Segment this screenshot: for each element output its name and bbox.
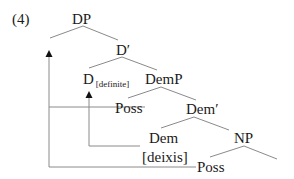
node-d-feature: [definite] bbox=[96, 79, 129, 89]
arrowhead-inner-icon bbox=[86, 91, 93, 98]
node-d: D[definite] bbox=[83, 72, 129, 92]
node-dem: Dem bbox=[149, 131, 178, 146]
node-poss-spec: Poss bbox=[115, 101, 143, 116]
node-dem-feature: [deixis] bbox=[142, 150, 188, 165]
node-d-label: D bbox=[83, 71, 94, 87]
node-np: NP bbox=[234, 131, 253, 146]
node-poss-base: Poss bbox=[197, 160, 225, 175]
node-demp: DemP bbox=[145, 72, 183, 87]
arrowhead-outer-icon bbox=[46, 50, 53, 57]
node-d-bar: D′ bbox=[116, 43, 130, 58]
node-dem-bar: Dem′ bbox=[186, 102, 218, 117]
example-number: (4) bbox=[12, 12, 30, 27]
node-dp: DP bbox=[72, 12, 91, 27]
